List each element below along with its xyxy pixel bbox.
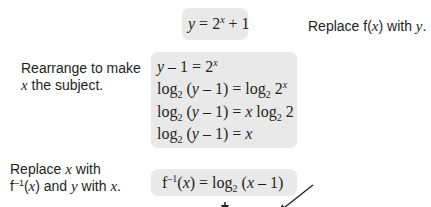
step-line-3: log2 (y – 1) = x log2 2 (157, 104, 294, 120)
step-line-2: log2 (y – 1) = log2 2x (157, 81, 287, 97)
annotation-rearrange: Rearrange to make x the subject. (21, 60, 141, 94)
arrow-replace-fx (280, 185, 313, 207)
annotation-replace-fx: Replace f(x) with y. (308, 18, 426, 35)
start-equation: y = 2x + 1 (188, 16, 250, 32)
step-line-4: log2 (y – 1) = x (157, 126, 252, 142)
step-line-1: y – 1 = 2x (157, 59, 218, 75)
arrows-layer (10, 161, 431, 207)
annotation-replace-x: Replace x with f–1(x) and y with x. cons… (10, 161, 121, 195)
